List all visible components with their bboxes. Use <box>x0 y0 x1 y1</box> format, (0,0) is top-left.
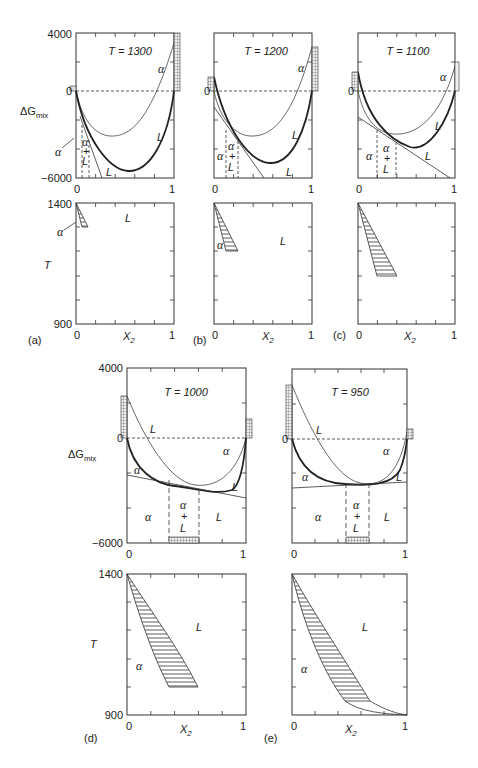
panel-a: 4000 0 −6000 0 1 T = 1300 α L L α + L α … <box>20 28 180 346</box>
panel-letter-a: (a) <box>28 334 41 346</box>
liquid-curve-e <box>292 385 407 484</box>
tick-t-x-left-e: 0 <box>291 720 297 732</box>
label-2phase-bottom-c: L <box>383 163 389 175</box>
label-2phase-bottom-b: L <box>228 161 234 173</box>
panel-letter-c: (c) <box>333 329 346 341</box>
tick-t-x-right-e: 1 <box>402 720 408 732</box>
two-phase-region-e <box>292 574 370 701</box>
label-alpha-region-d: α <box>145 510 152 524</box>
label-alpha-region-e: α <box>315 510 322 524</box>
tick-t-x-right-a: 1 <box>169 329 175 341</box>
panel-b: 0 0 1 T = 1200 α L L α α + L α L 0 1 X2 … <box>193 33 318 346</box>
label-2phase-bottom-e: L <box>353 522 359 534</box>
label-alpha-t-a: α <box>57 225 64 239</box>
tangent-d <box>127 475 246 498</box>
bar-right-a <box>174 33 180 91</box>
label-alpha-b: α <box>298 61 305 75</box>
label-alpha-single-c: α <box>366 149 373 163</box>
label-liquid-e: L <box>316 424 322 436</box>
temperature-label-a: T = 1300 <box>108 45 153 57</box>
label-alpha-t-e: α <box>301 662 308 676</box>
tick-x-left-b: 0 <box>212 183 218 195</box>
tick-dg-zero-a: 0 <box>66 85 72 97</box>
tick-dg-zero-c: 0 <box>348 85 354 97</box>
tick-t-x-right-c: 1 <box>451 329 457 341</box>
xlabel-c: X2 <box>403 330 416 345</box>
label-liquid-b: L <box>292 129 298 141</box>
panel-letter-d: (d) <box>84 732 97 744</box>
label-alpha-arrow-a: α <box>55 145 62 159</box>
tick-x-left-d: 0 <box>126 548 132 560</box>
label-2phase-bottom-d: L <box>180 522 186 534</box>
tick-dg-top-d: 4000 <box>99 362 123 374</box>
label-alpha-c: α <box>440 70 447 84</box>
tangent-b <box>214 107 264 178</box>
temperature-label-b: T = 1200 <box>244 45 289 57</box>
dg-ylabel-a: ΔGmix <box>20 105 48 120</box>
label-2phase-plus-e: + <box>354 510 360 522</box>
alpha-curve-e <box>292 439 407 485</box>
label-liquid-region-e: L <box>384 511 390 523</box>
label-liquid-c: L <box>435 120 441 132</box>
tick-dg-bottom-a: −6000 <box>41 172 72 184</box>
label-alpha-t-d: α <box>136 659 143 673</box>
label-liquid-t-b: L <box>280 235 286 247</box>
label-alpha-left-d: α <box>134 463 141 477</box>
tangent-e <box>292 482 407 488</box>
tick-x-left-e: 0 <box>291 548 297 560</box>
tick-t-x-right-b: 1 <box>308 329 314 341</box>
tick-t-bottom-d: 900 <box>105 709 123 721</box>
tick-dg-top-a: 4000 <box>48 28 72 40</box>
tick-t-x-left-b: 0 <box>212 329 218 341</box>
xlabel-b: X2 <box>261 330 274 345</box>
tick-t-x-left-c: 0 <box>356 329 362 341</box>
label-alpha-single-b: α <box>217 149 224 163</box>
label-liquid-t-e: L <box>362 621 368 633</box>
temperature-label-e: T = 950 <box>331 386 369 398</box>
liquidus-extension-e <box>370 701 407 715</box>
label-alpha-t-b: α <box>217 238 224 252</box>
tick-x-left-c: 0 <box>356 183 362 195</box>
temperature-label-d: T = 1000 <box>164 386 209 398</box>
label-2phase-plus-d: + <box>181 510 187 522</box>
panel-e: 0 0 1 T = 950 L α α L α L α + L 0 1 α L … <box>264 369 413 744</box>
tick-t-top-a: 1400 <box>48 198 72 210</box>
label-liquid-a: L <box>157 131 163 143</box>
tick-x-right-b: 1 <box>308 183 314 195</box>
label-alpha-e: α <box>383 444 390 458</box>
tick-dg-zero-b: 0 <box>204 85 210 97</box>
t-ylabel-d: T <box>90 638 98 650</box>
two-phase-region-c <box>358 203 397 276</box>
panel-d: 4000 0 −6000 0 1 T = 1000 L α α L α L α … <box>68 362 252 744</box>
label-liquid-right-e: L <box>396 471 402 483</box>
tick-x-right-d: 1 <box>240 548 246 560</box>
panel-letter-e: (e) <box>264 732 277 744</box>
tick-t-x-left-a: 0 <box>74 329 80 341</box>
tick-t-top-d: 1400 <box>99 568 123 580</box>
tick-t-x-right-d: 1 <box>240 720 246 732</box>
tick-dg-bottom-d: −6000 <box>92 537 123 549</box>
tick-dg-zero-e: 0 <box>282 433 288 445</box>
t-ylabel-a: T <box>44 259 52 271</box>
tick-dg-zero-d: 0 <box>117 432 123 444</box>
tick-t-bottom-a: 900 <box>54 318 72 330</box>
t-frame-c <box>358 203 455 324</box>
t-frame-d <box>127 574 246 715</box>
tick-x-right-a: 1 <box>169 183 175 195</box>
tick-t-x-left-d: 0 <box>126 720 132 732</box>
xlabel-e: X2 <box>344 723 357 738</box>
tick-x-right-c: 1 <box>451 183 457 195</box>
temperature-label-c: T = 1100 <box>387 45 431 57</box>
label-liquid-tangent-a: L <box>106 166 112 178</box>
dg-ylabel-d: ΔGmix <box>68 448 96 463</box>
label-liquid-tangent-b: L <box>286 166 292 178</box>
xlabel-d: X2 <box>179 723 192 738</box>
tick-x-right-e: 1 <box>402 548 408 560</box>
label-liquid-t-d: L <box>196 621 202 633</box>
t-frame-b <box>214 203 312 324</box>
two-phase-region-a <box>76 203 88 227</box>
panel-c: 0 0 1 T = 1100 α L L α α + L 0 1 X2 (c) <box>333 33 459 345</box>
label-alpha-d: α <box>223 444 230 458</box>
label-alpha-left-e: α <box>302 470 309 484</box>
label-liquid-tangent-c: L <box>425 150 431 162</box>
